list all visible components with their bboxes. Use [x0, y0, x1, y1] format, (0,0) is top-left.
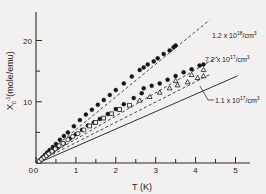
data-point: [57, 144, 61, 148]
data-point: [190, 67, 194, 71]
x-tick-label-2: 2: [114, 166, 119, 175]
y-tick-label-10: 10: [23, 98, 32, 107]
data-point: [98, 117, 102, 121]
data-point: [202, 62, 206, 66]
series-7p2e17-points: [38, 62, 206, 162]
annotation-1p2e18: 1.2 x 1018/cm3: [212, 30, 257, 39]
data-point: [122, 102, 126, 106]
data-point: [114, 107, 118, 111]
fit-line-1p1e17-dashed: [38, 75, 210, 162]
fit-line-7p2e17: [38, 57, 218, 161]
y-axis-title-units: (mole/emu): [5, 51, 15, 97]
annotation-7p2e17-text: 7.2 x 1017/cm3: [205, 54, 250, 63]
data-point: [142, 65, 146, 69]
annot3-unit: /cm: [245, 97, 256, 104]
data-point: [173, 78, 178, 82]
data-point: [94, 121, 98, 125]
annot1-unit-exponent: 3: [254, 30, 257, 36]
x-tick-label-5: 5: [233, 166, 238, 175]
data-point: [158, 81, 162, 85]
figure-container: 20 10 0 0 1 2 3 4 5 T (K) X0-1(mole/emu): [0, 0, 266, 194]
data-point: [114, 88, 118, 92]
data-point: [106, 112, 110, 116]
annot3-mantissa: 1.1 x 10: [215, 97, 240, 104]
data-point: [168, 48, 172, 52]
data-point: [71, 135, 75, 139]
data-point: [102, 98, 106, 102]
fit-line-1p1e17-solid: [38, 76, 238, 163]
data-point: [150, 84, 154, 88]
annotation-1p2e18-text: 1.2 x 1018/cm3: [212, 30, 257, 39]
data-point: [78, 118, 82, 122]
data-point: [138, 68, 142, 72]
y-axis-title-group: X0-1(mole/emu): [5, 51, 17, 110]
chart-canvas: 20 10 0 0 1 2 3 4 5 T (K) X0-1(mole/emu): [0, 0, 266, 194]
data-point: [58, 138, 62, 142]
data-point: [76, 132, 80, 136]
y-axis-title-sub: 0: [11, 101, 17, 104]
data-point: [137, 98, 142, 102]
data-point: [53, 147, 57, 151]
data-point: [146, 62, 150, 66]
annotation-7p2e17: 7.2 x 1017/cm3: [205, 54, 250, 63]
data-point: [62, 134, 66, 138]
data-point: [72, 124, 76, 128]
x-axis-title: T (K): [132, 182, 152, 192]
data-point: [132, 96, 136, 100]
data-point: [201, 74, 206, 78]
x-tick-label-4: 4: [193, 166, 198, 175]
series-1p1e17-points: [37, 67, 206, 163]
data-point: [122, 81, 126, 85]
data-point: [130, 75, 134, 79]
data-point: [66, 138, 70, 142]
data-point: [185, 80, 190, 84]
annot1-mantissa: 1.2 x 10: [212, 32, 237, 39]
x-tick-label-0: 0: [34, 166, 39, 175]
data-point: [174, 74, 178, 78]
data-point: [82, 128, 86, 132]
data-point: [198, 64, 202, 68]
data-point: [142, 86, 146, 90]
data-point: [96, 103, 100, 107]
x-axis-ticks: [36, 157, 236, 163]
annot3-unit-exponent: 3: [257, 95, 260, 101]
data-point: [61, 141, 65, 145]
data-point: [157, 90, 162, 94]
data-point: [152, 59, 156, 63]
data-point: [156, 56, 160, 60]
data-point: [108, 93, 112, 97]
data-point: [175, 83, 180, 87]
annot2-unit-exponent: 3: [247, 54, 250, 60]
data-point: [174, 44, 178, 48]
x-tick-label-3: 3: [153, 166, 158, 175]
data-point: [201, 67, 206, 71]
data-point: [102, 116, 106, 120]
annot1-unit: /cm: [242, 32, 253, 39]
annot2-mantissa: 7.2 x 10: [205, 56, 230, 63]
data-point: [110, 112, 114, 116]
x-tick-label-1: 1: [74, 166, 79, 175]
data-point: [162, 52, 166, 56]
annotation-1p1e17-text: 1.1 x 1017/cm3: [215, 95, 260, 104]
data-point: [88, 124, 92, 128]
y-axis-ticks: [36, 41, 42, 164]
data-point: [118, 108, 122, 112]
data-point: [128, 103, 132, 107]
fit-line-1p2e18: [38, 20, 210, 161]
data-point: [166, 78, 170, 82]
annotation-1p1e17-leader: [200, 86, 214, 100]
data-point: [90, 108, 94, 112]
data-point: [84, 113, 88, 117]
y-tick-label-20: 20: [23, 37, 32, 46]
y-axis-title: X0-1(mole/emu): [5, 51, 17, 110]
annot2-unit: /cm: [235, 56, 246, 63]
data-point: [66, 130, 70, 134]
data-point: [167, 86, 172, 90]
data-point: [182, 70, 186, 74]
data-point: [195, 75, 200, 79]
data-point: [140, 91, 144, 95]
